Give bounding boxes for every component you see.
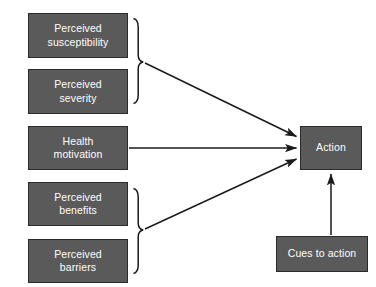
node-label-health-motivation: Health motivation — [29, 135, 127, 162]
node-perceived-barriers[interactable]: Perceived barriers — [28, 239, 128, 283]
arrow-threat-to-action — [145, 63, 297, 137]
node-label-perceived-benefits: Perceived benefits — [29, 191, 127, 218]
node-perceived-benefits[interactable]: Perceived benefits — [28, 182, 128, 226]
node-label-perceived-severity: Perceived severity — [29, 78, 127, 105]
brace-threat-perception — [134, 19, 144, 104]
health-belief-model-diagram: Perceived susceptibility Perceived sever… — [0, 0, 376, 287]
node-label-action: Action — [301, 141, 361, 154]
node-cues-to-action[interactable]: Cues to action — [276, 236, 368, 272]
arrow-evaluation-to-action — [145, 159, 297, 229]
node-health-motivation[interactable]: Health motivation — [28, 126, 128, 170]
node-perceived-severity[interactable]: Perceived severity — [28, 69, 128, 114]
node-action[interactable]: Action — [300, 126, 362, 170]
node-perceived-susceptibility[interactable]: Perceived susceptibility — [28, 13, 128, 58]
node-label-perceived-susceptibility: Perceived susceptibility — [29, 22, 127, 49]
brace-behavioral-evaluation — [134, 189, 144, 274]
node-label-cues-to-action: Cues to action — [277, 247, 367, 260]
node-label-perceived-barriers: Perceived barriers — [29, 248, 127, 275]
